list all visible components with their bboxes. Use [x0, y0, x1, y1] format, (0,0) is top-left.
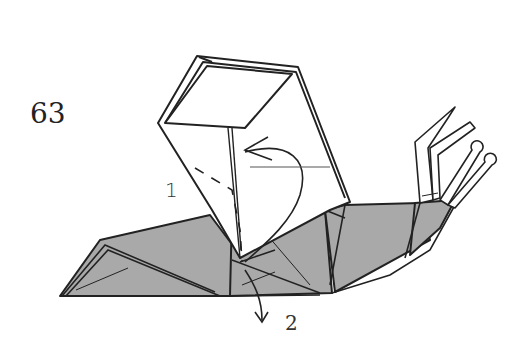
diagram-canvas: 63 [0, 0, 522, 343]
step-annotation-2: 2 [285, 313, 298, 333]
step-annotation-1: 1 [165, 180, 178, 200]
origami-snail-diagram [0, 0, 522, 343]
antenna-tentacles [415, 107, 496, 208]
